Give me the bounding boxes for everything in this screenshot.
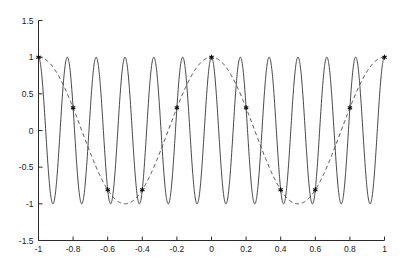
series-high-frequency-cosine: [39, 57, 385, 204]
y-tick-label: 0.5: [22, 89, 34, 99]
figure-canvas: -1-0.8-0.6-0.4-0.200.20.40.60.81 -1.5-1-…: [0, 0, 404, 266]
sample-marker: [348, 105, 352, 110]
data-series-layer: [39, 57, 385, 204]
sample-marker: [244, 105, 248, 110]
y-tick-label: -0.5: [19, 162, 34, 172]
x-tick-label: 0.6: [309, 244, 321, 254]
y-tick-label: 1: [29, 52, 34, 62]
x-tick-label: -0.2: [170, 244, 185, 254]
x-tick-label: -0.4: [135, 244, 150, 254]
axes-group: [39, 21, 385, 241]
y-tick-label: -1: [26, 199, 34, 209]
y-tick-label: 1.5: [22, 16, 34, 26]
sample-marker: [175, 105, 179, 110]
x-tick-label: -1: [35, 244, 43, 254]
series-low-frequency-alias-cosine: [39, 57, 385, 204]
x-tick-label: -0.8: [66, 244, 81, 254]
x-tick-label: 0.8: [344, 244, 356, 254]
x-tick-label: 0.4: [275, 244, 287, 254]
sample-point-markers: [36, 55, 386, 193]
x-tick-label: 1: [382, 244, 387, 254]
x-tick-label: -0.6: [100, 244, 115, 254]
x-axis-ticks: -1-0.8-0.6-0.4-0.200.20.40.60.81: [35, 237, 387, 254]
x-tick-label: 0.2: [240, 244, 252, 254]
chart-plot-area: -1-0.8-0.6-0.4-0.200.20.40.60.81 -1.5-1-…: [0, 0, 404, 266]
sample-marker: [71, 105, 75, 110]
y-tick-label: -1.5: [19, 236, 34, 246]
y-tick-label: 0: [29, 126, 34, 136]
x-tick-label: 0: [209, 244, 214, 254]
